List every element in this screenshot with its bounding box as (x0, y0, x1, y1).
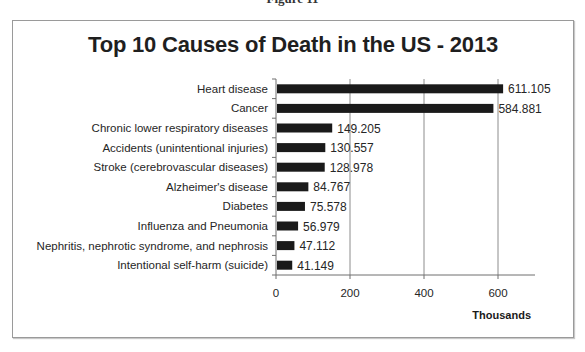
category-label: Chronic lower respiratory diseases (92, 122, 269, 134)
x-tick-label: 200 (340, 287, 359, 299)
data-label: 47.112 (299, 239, 335, 253)
bar (277, 84, 503, 93)
bar (277, 104, 493, 113)
x-axis-title: Thousands (472, 309, 531, 321)
bar (277, 124, 332, 133)
data-label: 75.578 (310, 200, 347, 214)
category-label: Alzheimer's disease (166, 181, 268, 193)
data-label: 149.205 (337, 122, 381, 136)
bar (277, 143, 325, 152)
x-tick-label: 0 (273, 287, 279, 299)
data-label: 128.978 (330, 161, 374, 175)
bar (277, 182, 308, 191)
x-tick-label: 400 (414, 287, 433, 299)
x-tick-label: 600 (488, 287, 507, 299)
category-label: Cancer (231, 102, 268, 114)
data-label: 584.881 (498, 102, 542, 116)
bar (277, 163, 325, 172)
data-label: 41.149 (297, 259, 334, 273)
data-label: 84.767 (313, 180, 350, 194)
data-label: 56.979 (303, 220, 340, 234)
bar (277, 202, 305, 211)
data-label: 611.105 (508, 82, 551, 96)
category-label: Nephritis, nephrotic syndrome, and nephr… (37, 240, 269, 252)
category-label: Stroke (cerebrovascular diseases) (94, 161, 269, 173)
bar-chart: 611.105Heart disease584.881Cancer149.205… (0, 0, 585, 352)
category-label: Accidents (unintentional injuries) (102, 142, 268, 154)
category-label: Influenza and Pneumonia (138, 220, 269, 232)
category-label: Heart disease (197, 83, 268, 95)
category-label: Diabetes (223, 200, 269, 212)
category-label: Intentional self-harm (suicide) (117, 259, 268, 271)
data-label: 130.557 (330, 141, 374, 155)
bar (277, 261, 292, 270)
bar (277, 241, 294, 250)
bar (277, 222, 298, 231)
